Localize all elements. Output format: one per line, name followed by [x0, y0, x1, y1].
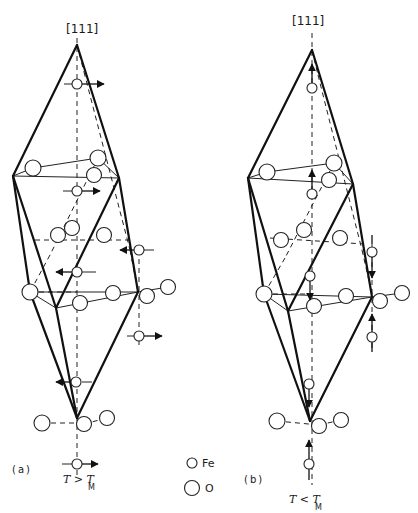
condition-b-subscript: M [315, 503, 322, 512]
legend-fe-label: Fe [202, 457, 215, 470]
legend: Fe O [185, 457, 215, 496]
legend-o-symbol [185, 481, 200, 496]
hidden-edges-a [30, 45, 139, 424]
condition-a-subscript: M [88, 483, 95, 492]
bold-edges-b [248, 50, 372, 421]
panel-b: [111] [244, 14, 410, 512]
legend-o-label: O [205, 482, 214, 495]
crystal-structure-diagram: [111] [0, 0, 418, 513]
legend-fe-symbol [187, 458, 197, 468]
panel-a: [111] [12, 22, 176, 492]
panel-label-b: (b) [244, 474, 264, 485]
axis-label-a: [111] [66, 22, 98, 36]
panel-label-a: (a) [12, 464, 32, 475]
axis-label-b: [111] [292, 14, 324, 28]
oxygen-atoms-a [22, 150, 176, 432]
